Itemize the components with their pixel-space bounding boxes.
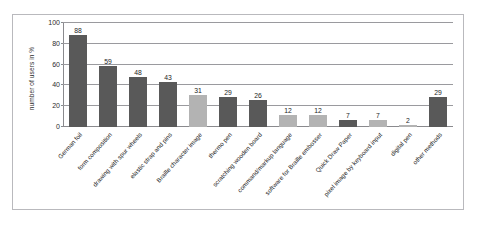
bar-slot: 59 bbox=[93, 23, 123, 127]
bar-slot: 2 bbox=[393, 23, 423, 127]
bar-value-label: 2 bbox=[406, 117, 410, 124]
bar-slot: 29 bbox=[213, 23, 243, 127]
bar-slot: 88 bbox=[63, 23, 93, 127]
y-axis-tick-label: 80 bbox=[52, 39, 60, 46]
bar[interactable]: 29 bbox=[429, 97, 448, 127]
bar-slot: 43 bbox=[153, 23, 183, 127]
bar[interactable]: 48 bbox=[129, 77, 148, 127]
x-axis-labels: German foilform compositiondrawing with … bbox=[63, 129, 453, 213]
bar-value-label: 48 bbox=[134, 69, 142, 76]
bar[interactable]: 43 bbox=[159, 82, 178, 127]
plot-area: 020406080100 88594843312926121277229 bbox=[63, 23, 453, 127]
bar-slot: 29 bbox=[423, 23, 453, 127]
bar-slot: 12 bbox=[273, 23, 303, 127]
bar-slot: 7 bbox=[363, 23, 393, 127]
bar[interactable]: 29 bbox=[219, 97, 238, 127]
bar[interactable]: 88 bbox=[69, 35, 88, 127]
bar[interactable]: 7 bbox=[339, 120, 358, 127]
bar[interactable]: 59 bbox=[99, 66, 118, 127]
y-axis-title: number of users in % bbox=[28, 34, 35, 124]
x-axis-tick-label: German foil bbox=[56, 131, 83, 160]
bar[interactable]: 12 bbox=[279, 115, 298, 127]
x-axis-label-slot: pixel image by keyboard input bbox=[363, 129, 393, 213]
y-axis-tick-label: 40 bbox=[52, 81, 60, 88]
chart-container: number of users in % 020406080100 885948… bbox=[12, 14, 464, 210]
x-axis-tick-label: digital pen bbox=[389, 131, 413, 157]
y-axis-tick-label: 100 bbox=[48, 19, 60, 26]
bar-value-label: 26 bbox=[254, 92, 262, 99]
bar-slot: 48 bbox=[123, 23, 153, 127]
bar-value-label: 7 bbox=[376, 112, 380, 119]
bar-slot: 31 bbox=[183, 23, 213, 127]
bar[interactable]: 31 bbox=[189, 95, 208, 127]
bar-slot: 26 bbox=[243, 23, 273, 127]
x-axis-label-slot: other methods bbox=[423, 129, 453, 213]
bar-value-label: 7 bbox=[346, 112, 350, 119]
bar-value-label: 43 bbox=[164, 74, 172, 81]
bar-value-label: 31 bbox=[194, 87, 202, 94]
y-axis-tick-label: 20 bbox=[52, 102, 60, 109]
y-axis-tick-label: 0 bbox=[56, 123, 60, 130]
bar-value-label: 29 bbox=[224, 89, 232, 96]
bar[interactable]: 12 bbox=[309, 115, 328, 127]
bar-value-label: 12 bbox=[314, 107, 322, 114]
x-axis-label-slot: German foil bbox=[63, 129, 93, 213]
bar[interactable]: 2 bbox=[399, 125, 418, 127]
bar-value-label: 59 bbox=[104, 58, 112, 65]
bar[interactable]: 26 bbox=[249, 100, 268, 127]
bar-slot: 12 bbox=[303, 23, 333, 127]
bar-value-label: 12 bbox=[284, 107, 292, 114]
bar[interactable]: 7 bbox=[369, 120, 388, 127]
bar-value-label: 29 bbox=[434, 89, 442, 96]
bar-value-label: 88 bbox=[74, 27, 82, 34]
x-axis-label-slot: digital pen bbox=[393, 129, 423, 213]
bar-series: 88594843312926121277229 bbox=[63, 23, 453, 127]
y-axis-tick-label: 60 bbox=[52, 60, 60, 67]
bar-slot: 7 bbox=[333, 23, 363, 127]
x-axis-label-slot: Braille character image bbox=[183, 129, 213, 213]
